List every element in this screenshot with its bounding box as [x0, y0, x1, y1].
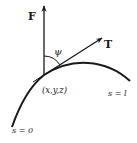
point-label: (x,y,z)	[42, 85, 67, 95]
angle-label: ψ	[54, 46, 62, 57]
angle-arc	[44, 56, 60, 65]
end-label: s = l	[108, 89, 127, 98]
rod-force-diagram: F T ψ (x,y,z) s = l s = 0	[0, 0, 137, 143]
tangent-vector-arrow	[44, 38, 102, 75]
force-label: F	[28, 10, 36, 23]
start-label: s = 0	[12, 126, 33, 135]
tangent-label: T	[104, 38, 113, 51]
